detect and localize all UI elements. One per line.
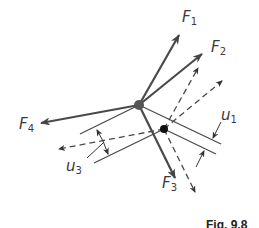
u3-arrow-up (97, 130, 103, 141)
label-f4: F4 (19, 117, 34, 134)
u3-leader (87, 143, 103, 158)
vector-f4 (41, 105, 139, 123)
dashed-f1 (164, 68, 198, 129)
displaced-node (160, 125, 168, 133)
dashed-f4 (59, 129, 164, 149)
label-u1: u1 (221, 108, 237, 125)
u1-arrow-bottom (196, 151, 204, 167)
displacement-markers (87, 122, 221, 167)
bar-right-lower (164, 129, 216, 154)
bar-right-upper (139, 105, 221, 144)
figure-caption: Fig. 9.8 (206, 218, 247, 228)
origin-node (134, 100, 144, 110)
displaced-vectors (59, 68, 222, 192)
label-f1: F1 (182, 10, 197, 27)
label-f2: F2 (211, 40, 226, 57)
label-f3: F3 (162, 176, 177, 193)
force-diagram: F1 F2 F3 F4 u1 u3 Fig. 9.8 (0, 0, 259, 228)
dashed-f2 (164, 81, 222, 129)
u1-arrow-top (213, 122, 221, 138)
u3-arrow-down (103, 141, 108, 154)
label-u3: u3 (66, 159, 82, 176)
vector-f2 (139, 54, 202, 105)
bar-lines (80, 105, 221, 163)
vector-f1 (139, 35, 179, 105)
